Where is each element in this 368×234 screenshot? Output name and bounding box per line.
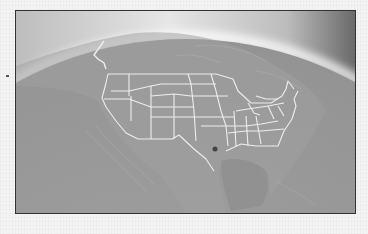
globe-map[interactable] <box>16 11 355 213</box>
side-marker <box>6 75 9 77</box>
location-dot <box>213 147 218 152</box>
map-frame[interactable] <box>15 10 356 214</box>
